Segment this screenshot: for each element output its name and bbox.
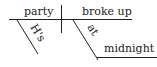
subject-word: party bbox=[24, 5, 54, 18]
sentence-diagram: party broke up H's at midnight bbox=[0, 0, 157, 67]
object-word: midnight bbox=[104, 42, 155, 55]
predicate-word: broke up bbox=[82, 5, 132, 18]
subject-modifier-word: H's bbox=[27, 22, 48, 45]
preposition-word: at bbox=[84, 22, 101, 39]
